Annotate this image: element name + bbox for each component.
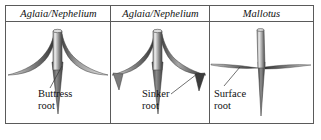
buttress-flare-right xyxy=(60,34,108,75)
trunk xyxy=(53,31,62,70)
column-header-sinker: Aglaia/Nephelium xyxy=(111,6,210,21)
trunk-top xyxy=(257,29,264,32)
comparison-table: Aglaia/Nephelium Aglaia/Nephelium Mallot… xyxy=(5,5,314,124)
root-architecture-figure: Aglaia/Nephelium Aglaia/Nephelium Mallot… xyxy=(0,0,321,140)
leader-line xyxy=(224,67,240,86)
buttress-flare-right xyxy=(160,34,206,75)
label-surface-root: Surface root xyxy=(214,88,246,111)
cell-surface-root: Surface root xyxy=(210,22,313,123)
trunk-top xyxy=(53,29,62,32)
trunk xyxy=(153,31,162,70)
table-header-row: Aglaia/Nephelium Aglaia/Nephelium Mallot… xyxy=(6,6,313,22)
trunk-top xyxy=(153,29,162,32)
sinker-root-right xyxy=(195,73,205,91)
column-header-surface: Mallotus xyxy=(210,6,313,21)
trunk xyxy=(257,30,265,68)
buttress-flare-left xyxy=(112,34,156,75)
sinker-root-left xyxy=(113,73,123,90)
label-buttress-root: Buttress root xyxy=(38,88,72,111)
surface-root-left xyxy=(211,64,258,68)
leader-line xyxy=(171,74,197,94)
taproot xyxy=(258,62,265,116)
surface-root-right xyxy=(265,65,311,69)
cell-buttress-root: Buttress root xyxy=(6,22,110,123)
buttress-flare-left xyxy=(8,34,56,75)
column-header-buttress: Aglaia/Nephelium xyxy=(6,6,111,21)
cell-sinker-root: Sinker root xyxy=(111,22,209,123)
label-sinker-root: Sinker root xyxy=(142,88,169,111)
